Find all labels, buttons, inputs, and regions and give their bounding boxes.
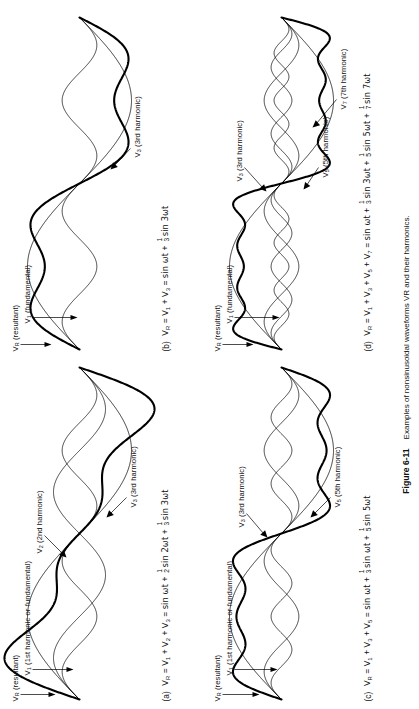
panel-c-equation: (c) VR = V1 + V3 + V5 = sin ωt + 13sin ω… <box>358 363 374 701</box>
figure-caption-text: Examples of nonsinusoidal waveforms VR a… <box>401 215 410 439</box>
figure-page: VR (resultant) V1 (1st harmonic or funda… <box>0 0 419 709</box>
panel-d-leaders <box>208 13 354 353</box>
panel-b-letter: (b) <box>160 341 170 351</box>
panel-b: VR (resultant) V1 (fundamental) V3 (3rd … <box>6 13 204 353</box>
panel-d: VR (resultant) V1 (fundamental) V3 (3rd … <box>208 13 394 353</box>
panel-c: VR (resultant) V1 (1st harmonic or funda… <box>208 363 394 703</box>
panel-d-equation: (d) VR = V1 + V3 + V5 + V7 = sin ωt + 13… <box>358 13 374 351</box>
figure-caption: Figure 6-11Examples of nonsinusoidal wav… <box>400 89 410 619</box>
panel-a-letter: (a) <box>160 691 170 701</box>
panel-b-leaders <box>6 13 152 353</box>
panel-d-letter: (d) <box>362 341 372 351</box>
panel-a-equation: (a) VR = V1 + V2 + V3 = sin ωt + 12sin 2… <box>156 363 172 701</box>
panel-b-equation: (b) VR = V1 + V3 = sin ωt + 13sin 3ωt <box>156 13 172 351</box>
panel-a: VR (resultant) V1 (1st harmonic or funda… <box>6 363 204 703</box>
figure-caption-label: Figure 6-11 <box>400 448 410 493</box>
panel-a-leaders <box>6 363 152 703</box>
panel-c-letter: (c) <box>362 691 372 701</box>
panel-c-leaders <box>208 363 354 703</box>
page-sheet: VR (resultant) V1 (1st harmonic or funda… <box>0 0 419 709</box>
